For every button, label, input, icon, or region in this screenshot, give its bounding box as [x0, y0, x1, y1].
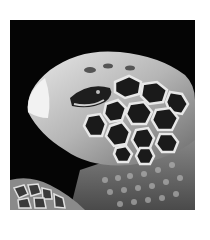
turtle-illustration — [10, 20, 195, 210]
eye-glint — [96, 90, 100, 94]
turtle-photo — [10, 20, 195, 210]
